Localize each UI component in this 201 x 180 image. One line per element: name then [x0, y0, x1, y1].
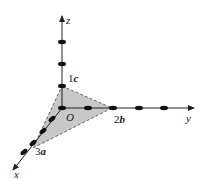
y-intercept-label: 2b	[114, 113, 126, 125]
x-intercept-label: 3a	[35, 145, 47, 157]
z-axis-label: z	[65, 14, 71, 26]
y-axis-label: y	[185, 112, 191, 124]
origin-label: O	[66, 111, 74, 123]
z-intercept-label: 1c	[68, 72, 79, 84]
coordinate-diagram: z y x O 1c 2b 3a	[0, 0, 201, 180]
x-axis-label: x	[13, 168, 19, 180]
